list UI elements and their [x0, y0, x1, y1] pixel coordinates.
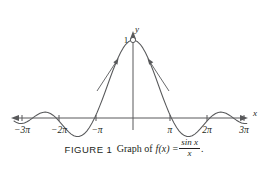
y-axis	[130, 31, 136, 130]
caption-equals-sign: =	[173, 143, 179, 154]
fraction-denominator: x	[179, 149, 200, 158]
y-axis-label: y	[134, 24, 139, 34]
fraction-numerator: sin x	[179, 138, 200, 147]
caption-text: Graph of	[117, 143, 153, 154]
caption-fraction: sin xx	[179, 138, 200, 159]
x-tick-label-neg-3pi: −3π	[14, 125, 30, 135]
figure-caption: FIGURE1Graph off(x)=sin xx.	[0, 139, 268, 160]
open-circle-discontinuity	[130, 37, 135, 42]
graph-plot-area: −3π −2π −π π 2π 3π x y 1	[0, 0, 268, 140]
x-tick-label-neg-2pi: −2π	[51, 125, 67, 135]
x-axis-left-arrowhead	[11, 115, 19, 121]
x-axis-label: x	[252, 108, 257, 118]
y-value-label-one: 1	[124, 35, 129, 45]
caption-function-name: f(x)	[156, 143, 170, 154]
x-tick-label-neg-pi: −π	[91, 125, 102, 135]
sinc-curve	[14, 40, 247, 137]
x-tick-label-pi: π	[168, 125, 173, 135]
caption-prefix: FIGURE	[65, 144, 104, 155]
x-tick-label-2pi: 2π	[202, 125, 212, 135]
caption-number: 1	[106, 144, 111, 155]
figure-sinx-over-x: −3π −2π −π π 2π 3π x y 1 FIGURE1Graph of…	[0, 0, 268, 176]
x-tick-label-3pi: 3π	[238, 125, 249, 135]
caption-period: .	[201, 143, 204, 154]
